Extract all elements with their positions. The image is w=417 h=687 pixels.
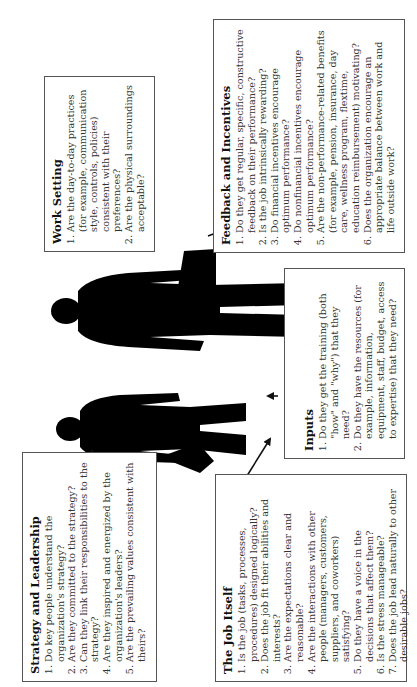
question-item: Do they have the resources (for example,… [352, 276, 398, 439]
question-item: Can they link their responsibilities to … [78, 460, 101, 662]
inputs-box: Inputs Do they get the training (both "h… [284, 268, 405, 459]
question-item: Is the job (tasks, processes, procedures… [236, 482, 259, 662]
question-item: Are they committed to the strategy? [66, 460, 78, 662]
question-item: Are the interactions with other people (… [306, 482, 352, 662]
work-setting-box: Work Setting Are the day-to-day practice… [44, 76, 155, 252]
question-item: Does the job fit their abilities and int… [259, 482, 282, 662]
box-title: Feedback and Incentives [220, 27, 233, 245]
question-item: Are the physical surroundings acceptable… [123, 84, 146, 232]
question-item: Do key people understand the organizatio… [43, 460, 66, 662]
question-item: Do financial incentives encourage optimu… [269, 27, 292, 233]
question-item: Do they get regular, specific, construct… [234, 27, 257, 233]
rotated-diagram-canvas: Strategy and Leadership Do key people un… [0, 0, 417, 687]
box-title: Strategy and Leadership [29, 460, 42, 674]
question-item: Does the organization encourage an appro… [362, 27, 397, 233]
question-item: Are the day-to-day practices (for exampl… [65, 84, 123, 232]
question-item: Does the job lead naturally to other des… [387, 482, 410, 662]
question-item: Do nonfinancial incentives encourage opt… [292, 27, 315, 233]
question-item: Are the prevailing values consistent wit… [124, 460, 147, 662]
question-item: Is the job intrinsically rewarding? [257, 27, 269, 233]
question-item: Are they inspired and energized by the o… [101, 460, 124, 662]
question-item: Do they have a voice in the decisions th… [352, 482, 375, 662]
box-title: Work Setting [51, 84, 64, 244]
question-item: Do they get the training (both "how" and… [317, 276, 352, 439]
strategy-leadership-box: Strategy and Leadership Do key people un… [22, 452, 157, 682]
box-title: Inputs [303, 276, 316, 451]
question-item: Is the stress manageable? [375, 482, 387, 662]
box-title: The Job Itself [222, 482, 235, 674]
question-item: Are the non-performance-related benefits… [315, 27, 361, 233]
question-item: Are the expectations clear and reasonabl… [282, 482, 305, 662]
people-silhouette-icon [51, 249, 300, 473]
job-itself-box: The Job Itself Is the job (tasks, proces… [215, 474, 407, 682]
feedback-incentives-box: Feedback and Incentives Do they get regu… [213, 19, 405, 253]
